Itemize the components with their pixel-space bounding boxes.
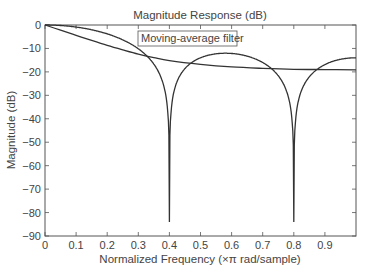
y-tick-label: −10 (22, 42, 41, 54)
y-tick-label: −50 (22, 136, 41, 148)
x-tick-label: 0.1 (68, 239, 83, 251)
plot-area (45, 25, 356, 236)
x-tick-label: 0 (42, 239, 48, 251)
x-tick-label: 0.8 (286, 239, 301, 251)
y-tick-label: −30 (22, 89, 41, 101)
y-axis-label: Magnitude (dB) (5, 91, 17, 170)
y-tick-label: −70 (22, 183, 41, 195)
x-tick-label: 0.5 (193, 239, 208, 251)
x-tick-label: 0.6 (224, 239, 239, 251)
magnitude-response-chart: Magnitude Response (dB) 00.10.20.30.40.5… (0, 0, 366, 269)
annotation-label: Moving-average filter (141, 32, 244, 44)
x-tick-label: 0.9 (317, 239, 332, 251)
x-tick-label: 0.7 (255, 239, 270, 251)
y-tick-label: −20 (22, 66, 41, 78)
y-tick-label: −60 (22, 160, 41, 172)
chart-title: Magnitude Response (dB) (133, 9, 267, 21)
y-tick-label: −40 (22, 113, 41, 125)
y-tick-label: −90 (22, 230, 41, 242)
x-axis-label: Normalized Frequency (×π rad/sample) (99, 253, 300, 265)
y-tick-label: −80 (22, 207, 41, 219)
x-tick-label: 0.3 (131, 239, 146, 251)
x-tick-label: 0.2 (100, 239, 115, 251)
y-tick-label: 0 (35, 19, 41, 31)
x-tick-label: 0.4 (162, 239, 177, 251)
